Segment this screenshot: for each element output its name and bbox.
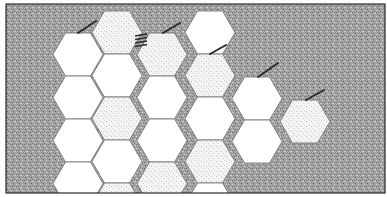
- hexagon-tiling-figure: [0, 0, 387, 197]
- figure-canvas: [0, 0, 387, 197]
